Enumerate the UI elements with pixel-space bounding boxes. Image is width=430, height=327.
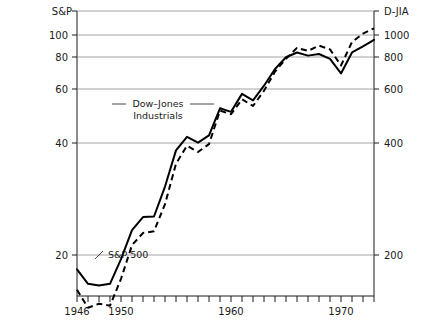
stock-index-line-chart: 100 80 60 40 20 1000 800 600 400 200 S&P… <box>0 0 430 327</box>
series-line-sp500 <box>77 28 374 307</box>
x-tick-label-1950: 1950 <box>108 306 133 317</box>
right-tick-label-600: 600 <box>384 84 403 95</box>
left-tick-label-20: 20 <box>55 250 68 261</box>
sp500-callout: S&P 500 <box>95 249 148 260</box>
right-axis-title: D-JIA <box>384 6 409 17</box>
left-tick-label-100: 100 <box>49 30 68 41</box>
left-tick-label-60: 60 <box>55 84 68 95</box>
dow-jones-label-line1: Dow–Jones <box>132 98 183 109</box>
left-tick-label-40: 40 <box>55 138 68 149</box>
x-axis-tick-marks <box>77 296 374 302</box>
dow-jones-callout: Dow–Jones Industrials <box>112 98 214 121</box>
right-axis-tick-labels: 1000 800 600 400 200 <box>384 30 409 261</box>
left-axis-tick-labels: 100 80 60 40 20 <box>49 30 68 261</box>
right-tick-label-800: 800 <box>384 52 403 63</box>
left-tick-label-80: 80 <box>55 52 68 63</box>
right-tick-marks <box>374 11 379 255</box>
x-axis-tick-labels: 1946195019601970 <box>64 306 353 317</box>
left-tick-marks <box>72 11 77 255</box>
x-tick-label-1960: 1960 <box>218 306 243 317</box>
x-tick-label-1970: 1970 <box>328 306 353 317</box>
dow-jones-label-line2: Industrials <box>133 110 183 121</box>
sp500-label: S&P 500 <box>108 249 148 260</box>
right-tick-label-200: 200 <box>384 250 403 261</box>
left-axis-title: S&P <box>52 6 72 17</box>
right-tick-label-400: 400 <box>384 138 403 149</box>
gridlines <box>77 35 374 255</box>
x-tick-label-1946: 1946 <box>64 306 89 317</box>
right-tick-label-1000: 1000 <box>384 30 409 41</box>
chart-container: 100 80 60 40 20 1000 800 600 400 200 S&P… <box>0 0 430 327</box>
